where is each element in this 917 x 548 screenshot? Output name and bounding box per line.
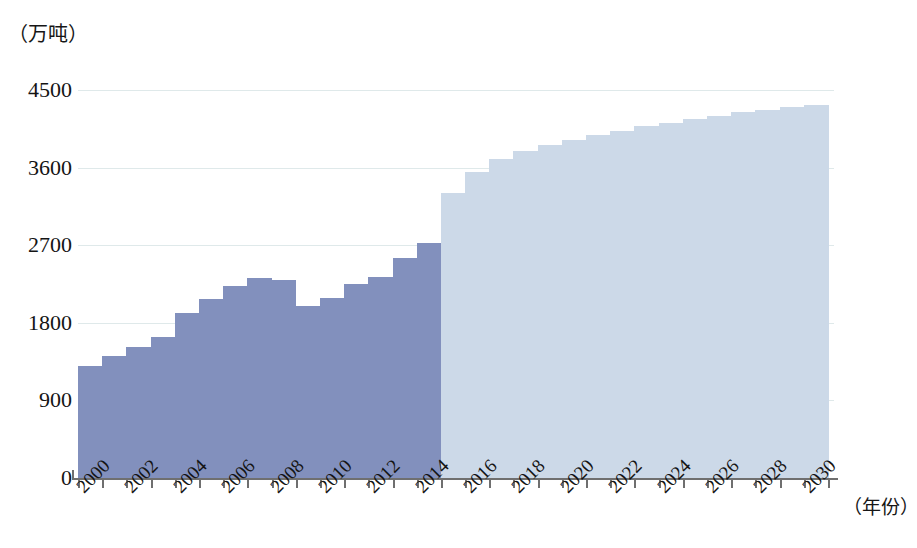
bar-2020 bbox=[562, 140, 587, 478]
chart-container: （万吨） 09001800270036004500 20002002200420… bbox=[0, 0, 917, 548]
bar-2003 bbox=[151, 337, 176, 478]
y-axis-tick-label: 2700 bbox=[8, 234, 72, 256]
bar-2007 bbox=[247, 278, 272, 478]
bar-2010 bbox=[320, 298, 345, 478]
bar-2014 bbox=[417, 243, 442, 478]
bar-2012 bbox=[368, 277, 393, 478]
y-axis-tick-label: 3600 bbox=[8, 157, 72, 179]
bar-2019 bbox=[538, 145, 563, 478]
bar-2009 bbox=[296, 306, 321, 478]
bar-2016 bbox=[465, 172, 490, 478]
bar-2022 bbox=[610, 131, 635, 478]
bar-2028 bbox=[755, 110, 780, 478]
plot-area bbox=[78, 90, 828, 478]
bar-2025 bbox=[683, 119, 708, 478]
bar-2027 bbox=[731, 112, 756, 478]
bar-2017 bbox=[489, 159, 514, 478]
bar-2026 bbox=[707, 116, 732, 478]
y-axis-tick-labels: 09001800270036004500 bbox=[0, 0, 72, 548]
y-axis-tick-label: 900 bbox=[8, 389, 72, 411]
bar-2001 bbox=[102, 356, 127, 478]
bar-2013 bbox=[393, 258, 418, 478]
x-axis-unit-label: （年份） bbox=[843, 492, 917, 519]
bar-2015 bbox=[441, 193, 466, 478]
bar-2024 bbox=[659, 123, 684, 478]
bar-2004 bbox=[175, 313, 200, 478]
y-axis-tick-label: 1800 bbox=[8, 312, 72, 334]
bar-2030 bbox=[804, 105, 829, 478]
bar-2021 bbox=[586, 135, 611, 478]
bar-2011 bbox=[344, 284, 369, 478]
bar-series-layer bbox=[78, 90, 828, 478]
bar-2023 bbox=[634, 126, 659, 478]
y-axis-tick-label: 0 bbox=[8, 467, 72, 489]
bar-2006 bbox=[223, 286, 248, 478]
bar-2008 bbox=[272, 280, 297, 478]
y-axis-tick-label: 4500 bbox=[8, 79, 72, 101]
bar-2005 bbox=[199, 299, 224, 478]
bar-2018 bbox=[513, 151, 538, 478]
bar-2029 bbox=[780, 107, 805, 478]
